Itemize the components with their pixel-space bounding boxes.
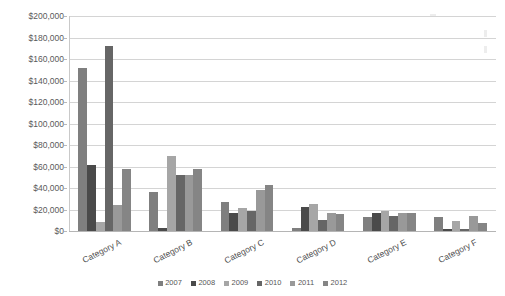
- x-axis-labels: Category ACategory BCategory CCategory D…: [69, 231, 496, 275]
- legend-swatch-icon: [158, 281, 163, 286]
- bar-group: [425, 16, 496, 231]
- y-axis-tick-label: $40,000: [0, 184, 64, 193]
- legend-label: 2010: [265, 279, 282, 287]
- bar-group-bars: [78, 16, 131, 231]
- bar[interactable]: [327, 213, 336, 231]
- y-axis-tick-mark: [64, 145, 67, 146]
- y-axis-tick-mark: [64, 59, 67, 60]
- bar[interactable]: [122, 169, 131, 231]
- legend-item[interactable]: 2008: [191, 279, 215, 287]
- bar[interactable]: [389, 216, 398, 231]
- x-axis-tick-label: Category A: [81, 237, 123, 265]
- x-axis-label-slot: Category B: [140, 231, 211, 275]
- bar[interactable]: [105, 46, 114, 231]
- bar-group-bars: [221, 16, 274, 231]
- chart-legend: 200720082009201020112012: [0, 279, 505, 287]
- legend-label: 2012: [331, 279, 348, 287]
- bar[interactable]: [434, 217, 443, 231]
- x-axis-label-slot: Category D: [283, 231, 354, 275]
- y-axis-tick-label: $180,000: [0, 33, 64, 42]
- y-axis-tick-label: $160,000: [0, 55, 64, 64]
- bar[interactable]: [407, 213, 416, 231]
- bar[interactable]: [167, 156, 176, 231]
- bar[interactable]: [96, 222, 105, 231]
- bar[interactable]: [185, 175, 194, 231]
- bar[interactable]: [398, 213, 407, 231]
- bar-group: [283, 16, 354, 231]
- bar[interactable]: [478, 223, 487, 231]
- bar-group: [354, 16, 425, 231]
- y-axis-tick-mark: [64, 16, 67, 17]
- bar-group-bars: [434, 16, 487, 231]
- legend-swatch-icon: [191, 281, 196, 286]
- bar[interactable]: [149, 192, 158, 231]
- y-axis-tick-mark: [64, 124, 67, 125]
- legend-label: 2007: [165, 279, 182, 287]
- y-axis-tick-mark: [64, 231, 67, 232]
- bar[interactable]: [469, 216, 478, 231]
- y-axis-tick-mark: [64, 81, 67, 82]
- bar-group: [211, 16, 282, 231]
- bar[interactable]: [265, 185, 274, 231]
- legend-swatch-icon: [323, 281, 328, 286]
- legend-label: 2008: [198, 279, 215, 287]
- bar-group-bars: [363, 16, 416, 231]
- bar[interactable]: [221, 202, 230, 231]
- bar[interactable]: [176, 175, 185, 231]
- x-axis-tick-label: Category E: [365, 237, 407, 265]
- legend-label: 2009: [232, 279, 249, 287]
- bar[interactable]: [363, 217, 372, 231]
- bar[interactable]: [309, 204, 318, 231]
- bar[interactable]: [301, 207, 310, 231]
- y-axis-tick-mark: [64, 167, 67, 168]
- bar[interactable]: [372, 213, 381, 231]
- x-axis-label-slot: Category F: [425, 231, 496, 275]
- legend-swatch-icon: [257, 281, 262, 286]
- x-axis-label-slot: Category E: [354, 231, 425, 275]
- bar[interactable]: [247, 211, 256, 231]
- y-axis-tick-label: $200,000: [0, 12, 64, 21]
- bar[interactable]: [336, 214, 345, 231]
- legend-item[interactable]: 2009: [224, 279, 248, 287]
- bar[interactable]: [193, 169, 202, 231]
- y-axis-tick-label: $20,000: [0, 205, 64, 214]
- y-axis-tick-mark: [64, 188, 67, 189]
- legend-item[interactable]: 2010: [257, 279, 281, 287]
- y-axis-labels: $0$20,000$40,000$60,000$80,000$100,000$1…: [0, 16, 64, 231]
- x-axis-tick-label: Category F: [437, 237, 479, 265]
- legend-label: 2011: [298, 279, 314, 287]
- y-axis-tick-label: $120,000: [0, 98, 64, 107]
- bar-group-bars: [292, 16, 345, 231]
- bar[interactable]: [256, 190, 265, 231]
- y-axis-tick-mark: [64, 38, 67, 39]
- y-axis-tick-label: $100,000: [0, 119, 64, 128]
- bar[interactable]: [381, 211, 390, 231]
- x-axis-tick-label: Category D: [294, 237, 337, 265]
- bar[interactable]: [113, 205, 122, 231]
- bar-group-bars: [149, 16, 202, 231]
- y-axis-tick-label: $140,000: [0, 76, 64, 85]
- plot-area: [69, 16, 496, 231]
- bar[interactable]: [318, 220, 327, 231]
- bar[interactable]: [78, 68, 87, 231]
- x-axis-tick-label: Category C: [223, 237, 266, 265]
- legend-swatch-icon: [224, 281, 229, 286]
- bar[interactable]: [452, 221, 461, 231]
- legend-item[interactable]: 2012: [323, 279, 347, 287]
- bar[interactable]: [229, 213, 238, 231]
- bar[interactable]: [87, 165, 96, 231]
- x-axis-tick-label: Category B: [152, 237, 194, 265]
- x-axis-label-slot: Category A: [69, 231, 140, 275]
- y-axis-tick-label: $0: [0, 227, 64, 236]
- x-axis-label-slot: Category C: [211, 231, 282, 275]
- bar-group: [69, 16, 140, 231]
- bar[interactable]: [238, 208, 247, 231]
- bar-chart: $0$20,000$40,000$60,000$80,000$100,000$1…: [0, 0, 505, 296]
- y-axis-tick-mark: [64, 102, 67, 103]
- y-axis-tick-label: $60,000: [0, 162, 64, 171]
- bar-groups: [69, 16, 496, 231]
- legend-item[interactable]: 2007: [158, 279, 182, 287]
- legend-swatch-icon: [290, 281, 295, 286]
- y-axis-tick-label: $80,000: [0, 141, 64, 150]
- legend-item[interactable]: 2011: [290, 279, 314, 287]
